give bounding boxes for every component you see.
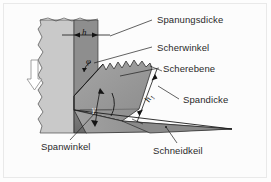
figure-root: Spanungsdicke Scherwinkel Scherebene Spa… — [0, 0, 271, 182]
label-schneidkeil: Schneidkeil — [153, 146, 203, 156]
symbol-phi-shear-angle: φ — [86, 57, 91, 66]
dim-h1-arrow-top — [152, 74, 158, 81]
leader-spanungsdicke — [110, 20, 152, 36]
label-scherebene: Scherebene — [163, 64, 215, 74]
symbol-gamma-rake-angle: γ — [92, 105, 96, 114]
dim-h1-arrow-bottom — [137, 110, 143, 117]
leader-scherwinkel — [94, 47, 152, 63]
label-spanungsdicke: Spanungsdicke — [157, 15, 223, 25]
label-scherwinkel: Scherwinkel — [157, 43, 209, 53]
label-spanwinkel: Spanwinkel — [41, 142, 91, 152]
leader-spandicke — [158, 86, 179, 99]
symbol-h-chip-thickness: h — [82, 28, 87, 37]
label-spandicke: Spandicke — [183, 95, 228, 105]
diagram-canvas — [0, 0, 271, 182]
workpiece-body — [38, 20, 74, 133]
